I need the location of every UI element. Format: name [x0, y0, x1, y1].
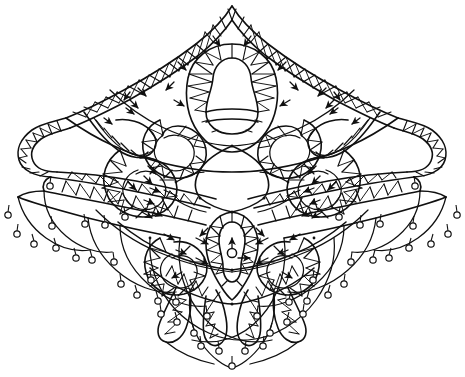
direction-arrow — [290, 82, 298, 90]
direction-arrow — [130, 100, 138, 108]
lace-diagram-canvas: Bobbin lace working diagram Symmetric ta… — [0, 0, 465, 377]
mid-left-rosette — [102, 150, 177, 218]
direction-arrow — [172, 272, 182, 278]
direction-arrow — [328, 182, 336, 190]
direction-arrow — [174, 100, 184, 106]
direction-arrow — [282, 272, 292, 278]
direction-arrow — [352, 118, 360, 124]
direction-arrow — [128, 182, 136, 190]
mid-right-rosette — [287, 150, 362, 218]
lace-drawing — [0, 0, 465, 377]
direction-arrow — [166, 82, 174, 90]
joining-ring-marker — [227, 248, 236, 257]
sewing-ring-icon — [227, 248, 236, 257]
direction-arrow — [326, 100, 334, 108]
upper-inner-tape-ring — [66, 90, 398, 172]
direction-arrow — [104, 118, 112, 124]
direction-arrow — [280, 100, 290, 106]
center-diamond-void — [176, 146, 288, 212]
